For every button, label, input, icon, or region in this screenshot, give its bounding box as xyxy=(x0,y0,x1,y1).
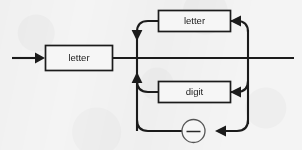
loop-bottom-terminal xyxy=(182,120,205,143)
loop-top-box-label: letter xyxy=(184,15,205,26)
entry-box: letter xyxy=(46,46,113,71)
top-rail-down-arrow-icon xyxy=(132,30,143,41)
digit-loop-arrow-icon xyxy=(230,87,241,98)
digit-loop-left-return xyxy=(132,72,158,92)
underscore-loop-left-curve xyxy=(137,120,182,131)
syntax-diagram-canvas: letter letter xyxy=(0,0,302,150)
entry-path xyxy=(12,53,45,64)
letter-loop-arrow-icon xyxy=(230,16,241,27)
loop-mid-box-label: digit xyxy=(186,86,204,97)
entry-box-label: letter xyxy=(68,52,89,63)
digit-loop-right-feed xyxy=(230,81,248,97)
railroad-diagram: letter letter xyxy=(0,0,302,150)
entry-arrow-icon xyxy=(35,53,45,64)
bottom-rail-up-arrow-icon xyxy=(132,72,143,83)
underscore-loop-arrow-icon xyxy=(215,126,226,137)
top-loop-left-return xyxy=(132,21,158,41)
loop-top-box: letter xyxy=(159,11,231,32)
underscore-loop-right-feed xyxy=(215,120,248,136)
loop-mid-box: digit xyxy=(159,82,231,103)
top-loop-right-feed xyxy=(230,16,248,32)
